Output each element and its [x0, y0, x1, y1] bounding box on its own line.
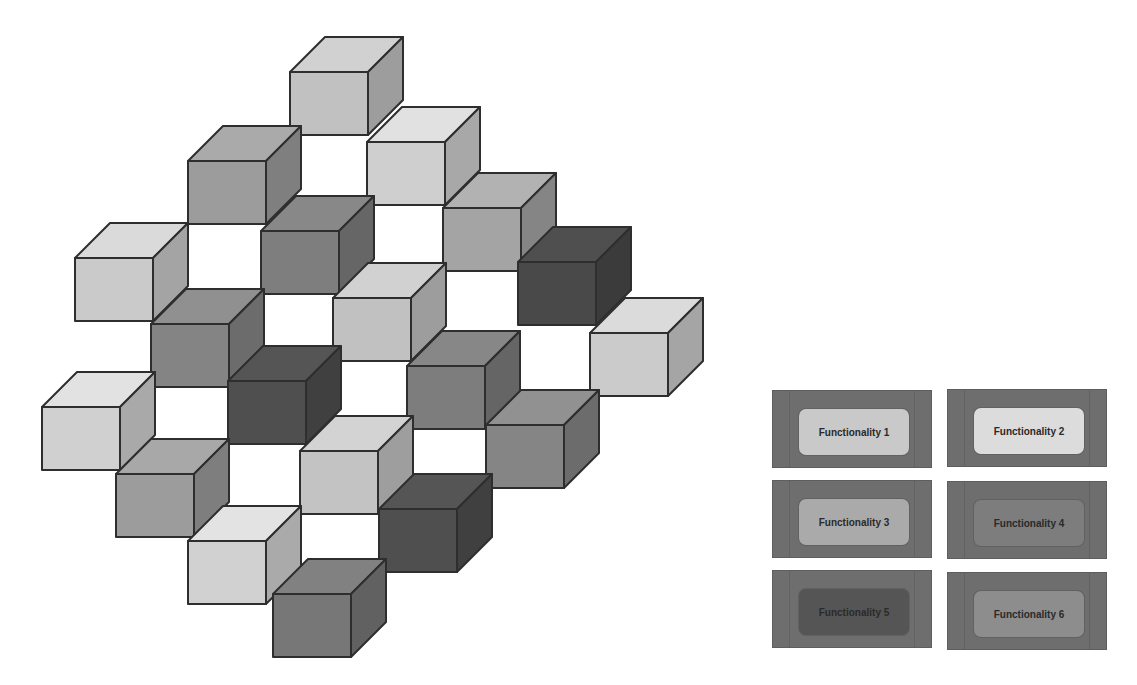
front-face	[333, 298, 411, 361]
legend-label-5: Functionality 5	[799, 589, 909, 635]
legend-tile-6: Functionality 6	[947, 572, 1107, 650]
front-face	[228, 381, 306, 444]
front-face	[261, 231, 339, 294]
legend-tile-1: Functionality 1	[772, 390, 932, 468]
front-face	[300, 451, 378, 514]
cube-1	[290, 37, 403, 135]
front-face	[188, 541, 266, 604]
legend-tile-5: Functionality 5	[772, 570, 932, 648]
front-face	[486, 425, 564, 488]
legend-label-4: Functionality 4	[974, 500, 1084, 546]
front-face	[42, 407, 120, 470]
legend-tile-3: Functionality 3	[772, 480, 932, 558]
front-face	[116, 474, 194, 537]
legend-label-1: Functionality 1	[799, 409, 909, 455]
legend-label-2: Functionality 2	[974, 408, 1084, 454]
front-face	[273, 594, 351, 657]
front-face	[518, 262, 596, 325]
front-face	[367, 142, 445, 205]
front-face	[407, 366, 485, 429]
front-face	[379, 509, 457, 572]
legend-tile-4: Functionality 4	[947, 481, 1107, 559]
front-face	[75, 258, 153, 321]
legend-label-6: Functionality 6	[974, 591, 1084, 637]
front-face	[590, 333, 668, 396]
front-face	[151, 324, 229, 387]
legend-label-3: Functionality 3	[799, 499, 909, 545]
front-face	[188, 161, 266, 224]
legend-tile-2: Functionality 2	[947, 389, 1107, 467]
front-face	[443, 208, 521, 271]
